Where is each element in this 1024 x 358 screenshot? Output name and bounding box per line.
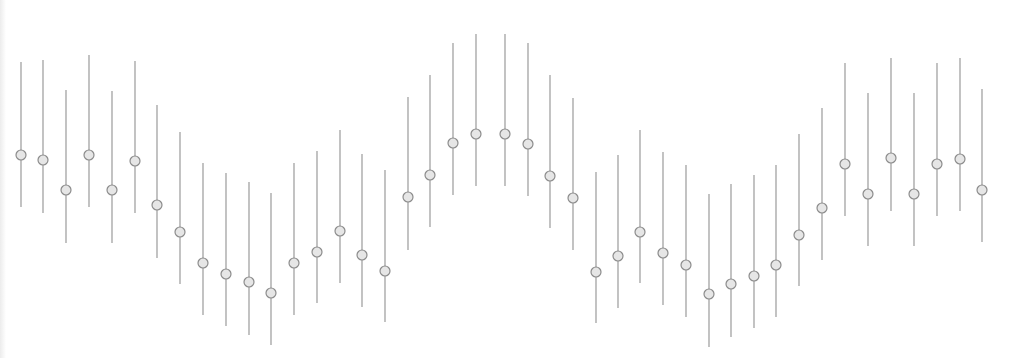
data-point-marker	[357, 250, 367, 260]
data-point-marker	[955, 154, 965, 164]
data-point-marker	[130, 156, 140, 166]
data-point-marker	[658, 248, 668, 258]
data-point-marker	[380, 266, 390, 276]
data-point-marker	[932, 159, 942, 169]
data-point-marker	[312, 247, 322, 257]
data-point-marker	[152, 200, 162, 210]
errorbar-chart	[0, 0, 1024, 358]
data-point-marker	[403, 192, 413, 202]
data-point-marker	[198, 258, 208, 268]
data-point-marker	[335, 226, 345, 236]
data-point-marker	[448, 138, 458, 148]
data-markers-group	[16, 129, 987, 299]
error-bars-group	[21, 34, 982, 347]
data-point-marker	[523, 139, 533, 149]
data-point-marker	[16, 150, 26, 160]
data-point-marker	[107, 185, 117, 195]
data-point-marker	[681, 260, 691, 270]
data-point-marker	[221, 269, 231, 279]
data-point-marker	[635, 227, 645, 237]
data-point-marker	[726, 279, 736, 289]
data-point-marker	[568, 193, 578, 203]
data-point-marker	[471, 129, 481, 139]
data-point-marker	[704, 289, 714, 299]
data-point-marker	[613, 251, 623, 261]
data-point-marker	[909, 189, 919, 199]
data-point-marker	[175, 227, 185, 237]
data-point-marker	[863, 189, 873, 199]
data-point-marker	[266, 288, 276, 298]
data-point-marker	[425, 170, 435, 180]
data-point-marker	[500, 129, 510, 139]
data-point-marker	[977, 185, 987, 195]
data-point-marker	[840, 159, 850, 169]
data-point-marker	[84, 150, 94, 160]
data-point-marker	[771, 260, 781, 270]
data-point-marker	[817, 203, 827, 213]
data-point-marker	[244, 277, 254, 287]
data-point-marker	[61, 185, 71, 195]
data-point-marker	[289, 258, 299, 268]
data-point-marker	[794, 230, 804, 240]
data-point-marker	[749, 271, 759, 281]
data-point-marker	[38, 155, 48, 165]
data-point-marker	[545, 171, 555, 181]
data-point-marker	[886, 153, 896, 163]
data-point-marker	[591, 267, 601, 277]
